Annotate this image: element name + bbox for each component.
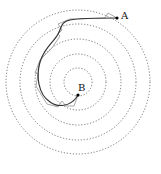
polygonal-path (35, 13, 117, 107)
point-b-label: B (78, 83, 85, 93)
point-a-marker (115, 16, 118, 19)
point-a-label: A (121, 11, 128, 21)
point-b-marker (76, 93, 79, 96)
